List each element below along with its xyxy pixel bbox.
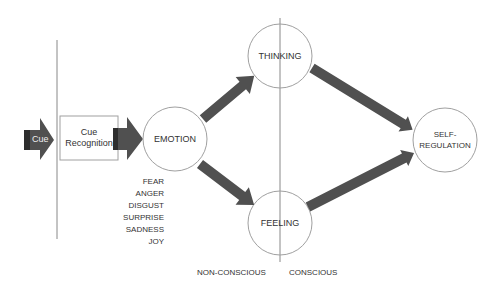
- emotion-label: EMOTION: [143, 107, 207, 171]
- emotions-list: FEAR ANGER DISGUST SURPRISE SADNESS JOY: [120, 176, 164, 248]
- thinking-to-self-regulation-arrow: [307, 60, 417, 137]
- emotion-item: DISGUST: [120, 200, 164, 212]
- self-regulation-line1: SELF-: [434, 129, 457, 140]
- feeling-label: FEELING: [248, 191, 312, 255]
- cue-recognition-label: Cue Recognition: [60, 116, 118, 160]
- thinking-label: THINKING: [248, 24, 312, 88]
- non-conscious-label: NON-CONSCIOUS: [197, 268, 266, 277]
- emotion-item: SURPRISE: [120, 212, 164, 224]
- cue-recognition-line1: Cue: [81, 127, 98, 138]
- emotion-item: ANGER: [120, 188, 164, 200]
- self-regulation-line2: REGULATION: [419, 140, 470, 151]
- cue-recognition-line2: Recognition: [65, 138, 113, 149]
- self-regulation-label: SELF- REGULATION: [413, 108, 477, 172]
- feeling-to-self-regulation-arrow: [304, 145, 418, 215]
- emotion-item: FEAR: [120, 176, 164, 188]
- conscious-label: CONSCIOUS: [289, 268, 337, 277]
- cue-label: Cue: [32, 134, 49, 144]
- emotion-item: JOY: [120, 236, 164, 248]
- emotion-item: SADNESS: [120, 224, 164, 236]
